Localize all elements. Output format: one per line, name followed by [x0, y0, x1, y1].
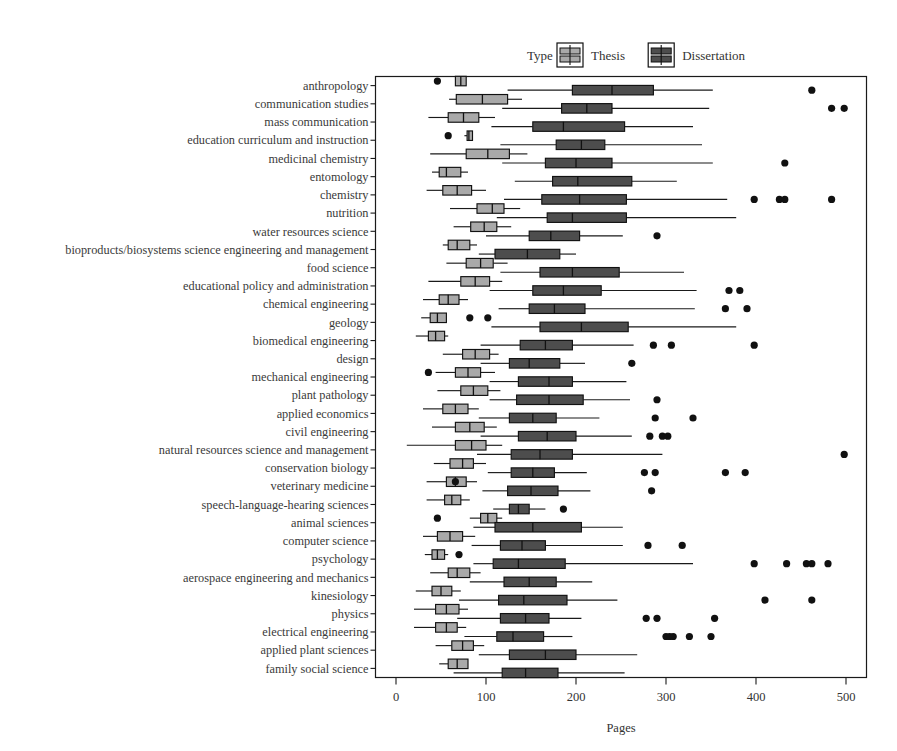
y-axis-tick-label: design	[336, 352, 368, 366]
box	[493, 559, 565, 569]
y-axis-tick-label: communication studies	[255, 97, 369, 111]
outlier-point	[808, 596, 815, 603]
outlier-point	[711, 615, 718, 622]
box	[529, 304, 585, 314]
outlier-point	[434, 515, 441, 522]
outlier-point	[751, 342, 758, 349]
outlier-point	[808, 87, 815, 94]
outlier-point	[841, 451, 848, 458]
box	[455, 441, 486, 451]
outlier-point	[560, 505, 567, 512]
y-axis-tick-label: animal sciences	[291, 516, 369, 530]
y-axis-tick-label: computer science	[283, 534, 369, 548]
outlier-point	[781, 196, 788, 203]
box	[509, 504, 529, 513]
outlier-point	[808, 560, 815, 567]
x-axis-tick-label: 100	[477, 690, 496, 704]
y-axis-tick-label: chemical engineering	[263, 297, 369, 311]
box	[467, 131, 472, 141]
box	[461, 386, 488, 396]
outlier-point	[455, 551, 462, 558]
box	[509, 359, 559, 369]
y-axis-tick-label: food science	[307, 261, 369, 275]
y-axis-tick-label: veterinary medicine	[271, 479, 370, 493]
box	[439, 295, 459, 305]
legend-title: Type	[527, 48, 553, 63]
box	[448, 240, 470, 250]
outlier-point	[781, 159, 788, 166]
box	[450, 459, 473, 469]
box	[502, 668, 558, 678]
outlier-point	[452, 478, 459, 485]
y-axis-tick-label: biomedical engineering	[253, 334, 369, 348]
outlier-point	[644, 542, 651, 549]
box	[466, 258, 493, 268]
box	[504, 577, 556, 587]
outlier-point	[743, 305, 750, 312]
y-axis-tick-label: mechanical engineering	[251, 370, 368, 384]
box	[533, 286, 601, 296]
y-axis-tick-label: nutrition	[326, 206, 368, 220]
y-axis-tick-label: education curriculum and instruction	[187, 133, 368, 147]
x-axis-title: Pages	[606, 721, 635, 735]
box	[500, 541, 545, 551]
box	[540, 322, 628, 332]
outlier-point	[652, 469, 659, 476]
box	[445, 495, 461, 505]
boxplot-chart: TypeThesisDissertation anthropologycommu…	[0, 0, 897, 751]
outlier-point	[722, 305, 729, 312]
outlier-point	[841, 105, 848, 112]
outlier-point	[742, 469, 749, 476]
x-axis: 0100200300400500Pages	[393, 678, 856, 735]
y-axis-tick-label: family social science	[265, 662, 369, 676]
box	[495, 523, 581, 533]
outlier-point	[689, 414, 696, 421]
box	[481, 513, 497, 523]
outlier-point	[646, 433, 653, 440]
box	[432, 586, 452, 596]
box	[509, 650, 576, 660]
box	[540, 268, 619, 278]
box	[545, 158, 612, 168]
outlier-point	[824, 560, 831, 567]
box	[529, 231, 579, 241]
outlier-point	[751, 196, 758, 203]
box	[499, 595, 567, 605]
y-axis-tick-label: mass communication	[264, 115, 368, 129]
outlier-point	[761, 596, 768, 603]
x-axis-tick-label: 400	[747, 690, 766, 704]
y-axis-tick-label: water resources science	[252, 225, 369, 239]
outlier-point	[751, 560, 758, 567]
y-axis-tick-label: applied plant sciences	[261, 643, 369, 657]
outlier-point	[653, 615, 660, 622]
box	[439, 167, 461, 177]
box	[430, 313, 446, 323]
outlier-point	[643, 615, 650, 622]
box	[547, 213, 626, 223]
outlier-point	[679, 542, 686, 549]
box	[477, 204, 504, 214]
outlier-point	[484, 314, 491, 321]
outlier-point	[466, 314, 473, 321]
outlier-point	[670, 633, 677, 640]
outlier-point	[650, 342, 657, 349]
y-axis-tick-label: electrical engineering	[262, 625, 368, 639]
box	[508, 486, 558, 496]
outlier-point	[828, 196, 835, 203]
box	[448, 568, 470, 578]
box	[448, 659, 468, 669]
chart-legend: TypeThesisDissertation	[527, 43, 746, 67]
outlier-point	[653, 396, 660, 403]
box	[432, 550, 445, 560]
box	[520, 340, 572, 350]
outlier-point	[641, 469, 648, 476]
y-axis-tick-label: aerospace engineering and mechanics	[183, 571, 369, 585]
y-axis-tick-label: civil engineering	[286, 425, 369, 439]
x-axis-tick-label: 300	[657, 690, 676, 704]
box	[428, 331, 444, 341]
outlier-point	[434, 77, 441, 84]
legend-label: Dissertation	[682, 48, 745, 63]
box	[511, 450, 572, 460]
y-axis-tick-label: physics	[332, 607, 369, 621]
outlier-point	[445, 132, 452, 139]
